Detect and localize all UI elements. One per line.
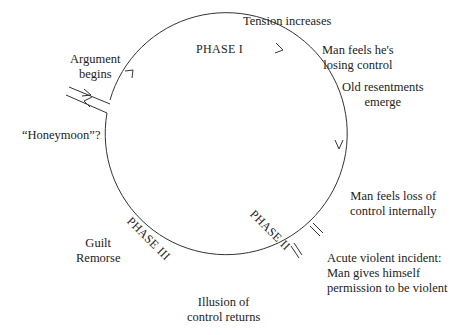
phase-1-label: PHASE I bbox=[196, 42, 243, 57]
argument-begins-label: Argument begins bbox=[70, 52, 120, 82]
loss-internal-label: Man feels loss of control internally bbox=[350, 189, 436, 219]
guilt-remorse-label: Guilt Remorse bbox=[76, 236, 120, 266]
label-line: losing control bbox=[322, 58, 394, 73]
label-line: emerge bbox=[342, 95, 424, 110]
label-line: Remorse bbox=[76, 251, 120, 266]
label-line: Argument bbox=[70, 52, 120, 67]
label-line: control returns bbox=[187, 310, 260, 325]
tick-mark bbox=[313, 223, 323, 233]
label-line: begins bbox=[70, 67, 120, 82]
arrow-tension-icon bbox=[275, 43, 283, 53]
arrow-right-icon bbox=[335, 140, 343, 149]
label-line: Old resentments bbox=[342, 80, 424, 95]
losing-control-label: Man feels he's losing control bbox=[322, 43, 394, 73]
label-line: Man gives himself bbox=[327, 266, 447, 281]
acute-incident-label: Acute violent incident: Man gives himsel… bbox=[327, 251, 447, 296]
arrow-argument-icon bbox=[125, 70, 133, 78]
old-resentments-label: Old resentments emerge bbox=[342, 80, 424, 110]
tick-mark bbox=[310, 226, 320, 236]
label-line: Acute violent incident: bbox=[327, 251, 447, 266]
honeymoon-label: “Honeymoon”? bbox=[22, 128, 100, 143]
label-line: Illusion of bbox=[187, 295, 260, 310]
label-line: Man feels he's bbox=[322, 43, 394, 58]
label-line: Guilt bbox=[76, 236, 120, 251]
tension-increases-label: Tension increases bbox=[243, 14, 331, 29]
label-line: permission to be violent bbox=[327, 281, 447, 296]
label-line: Man feels loss of bbox=[350, 189, 436, 204]
illusion-control-label: Illusion of control returns bbox=[187, 295, 260, 325]
label-line: control internally bbox=[350, 204, 436, 219]
